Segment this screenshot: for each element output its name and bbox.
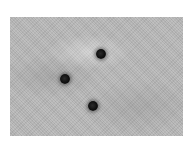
dark-spot-3 xyxy=(88,101,98,111)
dark-spot-2 xyxy=(60,74,70,84)
dark-spot-1 xyxy=(96,49,106,59)
grayscale-photo xyxy=(10,17,183,136)
